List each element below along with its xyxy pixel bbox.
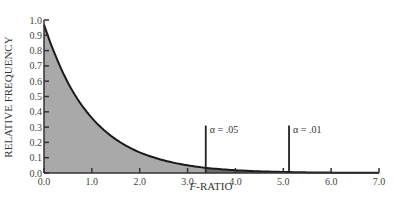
f-distribution-chart: 0.00.10.20.30.40.50.60.70.80.91.0 0.01.0… bbox=[0, 0, 394, 213]
y-tick-label: 0.4 bbox=[30, 106, 43, 117]
x-tick-label: 0.0 bbox=[38, 176, 51, 187]
y-tick-label: 0.3 bbox=[30, 122, 43, 133]
x-tick-label: 1.0 bbox=[86, 176, 99, 187]
y-axis-title: RELATIVE FREQUENCY bbox=[2, 36, 14, 157]
x-tick-label: 7.0 bbox=[373, 176, 386, 187]
x-tick-label: 6.0 bbox=[325, 176, 338, 187]
y-tick-label: 0.8 bbox=[30, 45, 43, 56]
y-tick-label: 0.7 bbox=[30, 60, 43, 71]
y-tick-label: 0.2 bbox=[30, 137, 43, 148]
y-tick-label: 0.1 bbox=[30, 152, 43, 163]
plot-area bbox=[44, 25, 379, 173]
alpha-label: α = .05 bbox=[210, 124, 238, 135]
y-tick-label: 0.9 bbox=[30, 30, 43, 41]
alpha-annotations: α = .05α = .01 bbox=[206, 124, 322, 173]
x-tick-label: 5.0 bbox=[277, 176, 290, 187]
y-tick-label: 1.0 bbox=[30, 15, 43, 26]
y-tick-label: 0.6 bbox=[30, 76, 43, 87]
x-axis-title: F-RATIO bbox=[189, 180, 233, 192]
alpha-label: α = .01 bbox=[293, 124, 321, 135]
y-tick-label: 0.5 bbox=[30, 91, 43, 102]
x-tick-label: 2.0 bbox=[133, 176, 146, 187]
density-area bbox=[44, 25, 379, 173]
